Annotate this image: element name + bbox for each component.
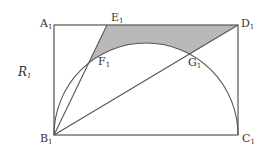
label-E1: E1	[111, 12, 124, 25]
label-D1: D1	[241, 18, 254, 31]
label-F1-sub: 1	[106, 61, 110, 69]
label-E1-sub: 1	[119, 17, 123, 25]
label-B1-sub: 1	[48, 138, 52, 146]
figure-label-sub: 1	[27, 72, 31, 80]
label-C1-sub: 1	[250, 138, 254, 146]
label-A1-text: A	[40, 17, 48, 30]
label-G1-text: G	[188, 56, 197, 69]
label-B1: B1	[40, 133, 53, 146]
label-G1-sub: 1	[197, 62, 201, 70]
figure-label-R1: R1	[18, 66, 32, 80]
geometry-figure: R1 A1 E1 D1 F1 G1 B1 C1	[0, 0, 264, 156]
label-G1: G1	[188, 57, 201, 70]
label-D1-text: D	[241, 17, 250, 30]
label-D1-sub: 1	[250, 23, 254, 31]
semicircle-arc	[54, 43, 238, 135]
figure-label-text: R	[18, 65, 27, 79]
label-F1-text: F	[98, 55, 106, 68]
label-A1: A1	[40, 18, 52, 31]
label-B1-text: B	[40, 132, 48, 145]
label-E1-text: E	[111, 11, 119, 24]
shaded-region	[89, 25, 238, 63]
label-A1-sub: 1	[48, 23, 52, 31]
label-F1: F1	[98, 56, 110, 69]
label-C1: C1	[242, 133, 255, 146]
segment-B1E1	[54, 25, 107, 135]
